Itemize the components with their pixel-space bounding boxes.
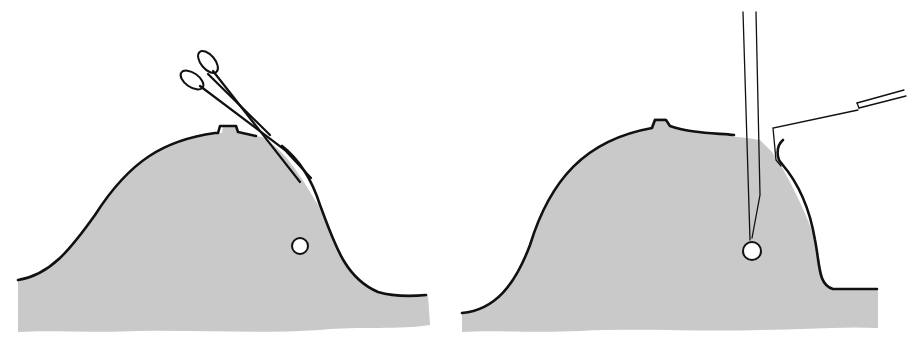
right-lesion — [743, 242, 761, 260]
hook-retractor-icon — [773, 90, 906, 166]
left-tissue — [18, 126, 430, 332]
diagram-stage — [0, 0, 913, 343]
left-lesion — [292, 238, 308, 254]
left-panel — [18, 48, 430, 332]
diagram-svg — [0, 0, 913, 343]
right-tissue — [462, 118, 878, 332]
right-panel — [462, 12, 906, 332]
